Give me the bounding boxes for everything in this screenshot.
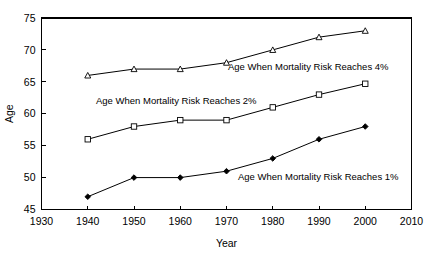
data-point-diamond <box>224 168 230 174</box>
y-axis-title: Age <box>3 104 15 123</box>
x-tick-label: 2000 <box>354 215 378 227</box>
data-point-square <box>316 92 321 97</box>
y-tick-label: 55 <box>24 139 36 151</box>
y-tick-label: 70 <box>24 44 36 56</box>
y-tick-label: 75 <box>24 12 36 24</box>
y-tick-label: 50 <box>24 171 36 183</box>
data-point-diamond <box>177 175 183 181</box>
y-tick-label: 60 <box>24 107 36 119</box>
x-tick-label: 1970 <box>215 215 239 227</box>
data-point-diamond <box>316 136 322 142</box>
data-point-diamond <box>85 194 91 200</box>
data-point-square <box>224 117 229 122</box>
data-point-square <box>85 137 90 142</box>
x-tick-label: 1950 <box>122 215 146 227</box>
data-point-square <box>131 124 136 129</box>
line-chart: 4550556065707519301940195019601970198019… <box>0 0 432 258</box>
x-tick-label: 1930 <box>30 215 54 227</box>
x-tick-label: 2010 <box>400 215 424 227</box>
chart-container: 4550556065707519301940195019601970198019… <box>0 0 432 258</box>
y-tick-label: 45 <box>24 203 36 215</box>
x-axis-title: Year <box>216 237 238 249</box>
data-point-square <box>363 81 368 86</box>
series-line-2 <box>88 84 366 140</box>
data-point-triangle <box>362 28 368 34</box>
x-tick-label: 1980 <box>261 215 285 227</box>
x-tick-label: 1960 <box>169 215 193 227</box>
x-tick-label: 1990 <box>307 215 331 227</box>
series-annotation-3: Age When Mortality Risk Reaches 1% <box>238 171 399 182</box>
series-line-3 <box>88 127 366 197</box>
data-point-diamond <box>131 175 137 181</box>
series-annotation-2: Age When Mortality Risk Reaches 2% <box>96 95 257 106</box>
x-tick-label: 1940 <box>76 215 100 227</box>
data-point-square <box>178 117 183 122</box>
data-point-diamond <box>362 124 368 130</box>
series-annotation-1: Age When Mortality Risk Reaches 4% <box>228 61 389 72</box>
data-point-square <box>270 105 275 110</box>
y-tick-label: 65 <box>24 76 36 88</box>
data-point-diamond <box>270 156 276 162</box>
